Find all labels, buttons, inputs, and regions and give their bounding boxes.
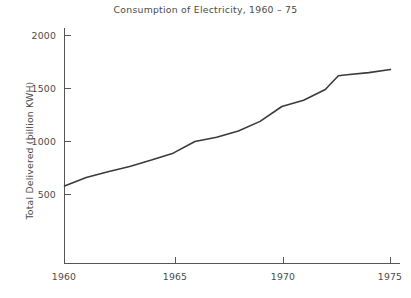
electricity-consumption-line [65, 69, 391, 186]
chart-plot-area [0, 0, 411, 298]
chart-figure: Consumption of Electricity, 1960 – 75 To… [0, 0, 411, 298]
